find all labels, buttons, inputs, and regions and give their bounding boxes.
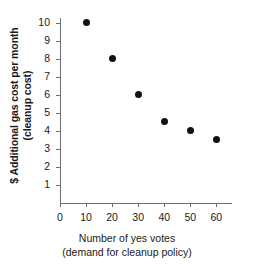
y-tick: 4: [56, 131, 60, 132]
y-axis-line: [60, 18, 61, 203]
y-tick: 1: [56, 185, 60, 186]
y-tick-label: 6: [32, 88, 50, 101]
data-point: [135, 91, 142, 98]
x-axis-title-line1: Number of yes votes: [0, 231, 254, 245]
data-point: [109, 55, 116, 62]
y-axis-title-line1: $ Additional gas cost per month: [8, 27, 20, 183]
x-tick: [164, 203, 165, 207]
data-point: [161, 118, 168, 125]
x-tick-label: 60: [203, 211, 229, 224]
x-tick-label: 50: [177, 211, 203, 224]
y-tick: 6: [56, 95, 60, 96]
y-tick-label: 5: [32, 106, 50, 119]
y-tick-label: 3: [32, 142, 50, 155]
y-tick-label: 10: [32, 16, 50, 29]
y-tick: 2: [56, 167, 60, 168]
y-axis-title-line2: (cleanup cost): [20, 27, 33, 183]
x-tick-label: 40: [151, 211, 177, 224]
x-tick-label: 30: [125, 211, 151, 224]
y-tick: 7: [56, 77, 60, 78]
x-tick: [216, 203, 217, 207]
y-tick: 5: [56, 113, 60, 114]
x-tick: [138, 203, 139, 207]
x-tick-label: 20: [99, 211, 125, 224]
x-tick: [60, 203, 61, 207]
data-point: [213, 136, 220, 143]
x-tick-label: 0: [47, 211, 73, 224]
y-tick-label: 8: [32, 52, 50, 65]
data-point: [187, 127, 194, 134]
x-tick: [86, 203, 87, 207]
y-tick: 10: [56, 23, 60, 24]
y-tick-label: 7: [32, 70, 50, 83]
scatter-chart-figure: $ Additional gas cost per month (cleanup…: [0, 0, 254, 267]
plot-area: 12345678910 0102030405060: [60, 12, 232, 203]
y-axis-title-text: $ Additional gas cost per month (cleanup…: [8, 27, 33, 183]
y-tick-label: 1: [32, 178, 50, 191]
x-tick-label: 10: [73, 211, 99, 224]
x-axis-title-line2: (demand for cleanup policy): [0, 245, 254, 259]
x-tick: [112, 203, 113, 207]
x-tick: [190, 203, 191, 207]
data-point: [83, 19, 90, 26]
y-tick: 3: [56, 149, 60, 150]
y-tick-label: 4: [32, 124, 50, 137]
y-tick-label: 9: [32, 34, 50, 47]
y-tick: 8: [56, 59, 60, 60]
y-tick: 9: [56, 41, 60, 42]
x-axis-title: Number of yes votes (demand for cleanup …: [0, 231, 254, 259]
y-tick-label: 2: [32, 160, 50, 173]
